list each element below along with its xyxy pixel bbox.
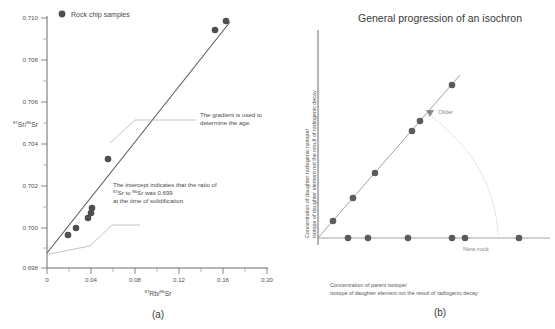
panel-b: General progression of an isochron <box>300 0 555 329</box>
y-tick-label-6: 0.698 <box>23 264 39 271</box>
data-point <box>350 195 357 202</box>
x-tick-label-0: 0 <box>45 276 49 283</box>
x-tick-label-1: 0.04 <box>85 276 98 283</box>
data-point <box>65 232 72 239</box>
data-point <box>462 235 469 242</box>
panel-b-x-axis-label-line-2: isotope of daughter element not the resu… <box>330 290 478 296</box>
progression-arc <box>432 117 498 236</box>
y-tick-label-1: 0.708 <box>23 56 39 63</box>
intercept-annotation-line-3: at the time of solidification. <box>113 197 185 204</box>
data-point <box>405 235 412 242</box>
x-tick-label-4: 0.16 <box>217 276 230 283</box>
data-point <box>223 18 230 25</box>
y-tick-label-5: 0.700 <box>23 224 39 231</box>
data-point <box>330 218 337 225</box>
x-tick-label-2: 0.08 <box>129 276 142 283</box>
data-point <box>105 156 112 163</box>
isochron-fit-line <box>47 22 230 253</box>
x-axis-ticks <box>47 268 267 274</box>
y-axis-title: 87Sr/86Sr <box>13 120 39 128</box>
panel-b-title: General progression of an isochron <box>358 12 522 24</box>
y-tick-label-0: 0.710 <box>23 14 39 21</box>
data-point <box>212 27 219 34</box>
rock-chip-data-points <box>65 18 230 239</box>
gradient-leader-line <box>110 120 196 143</box>
x-axis-title-mid: Rb/ <box>149 290 160 297</box>
older-isochron-line <box>318 75 460 238</box>
x-axis-title: 87Rb/86Sr <box>145 289 173 297</box>
gradient-annotation-line-2: determine the age. <box>200 119 251 126</box>
data-point <box>449 235 456 242</box>
panel-b-y-axis-label-line-2: isotope of daughter element not the resu… <box>311 90 317 238</box>
data-point <box>365 235 372 242</box>
intercept-annotation-line-1: The intercept indicates that the ratio o… <box>113 181 217 188</box>
gradient-annotation-line-1: The gradient is used to <box>200 111 263 118</box>
older-arrow-icon <box>426 110 434 117</box>
intercept-leader-line <box>49 225 140 254</box>
panel-b-y-axis-label: Concentration of daughter radiogenic iso… <box>304 90 317 238</box>
y-axis-title-tail: Sr <box>31 121 39 128</box>
y-tick-label-4: 0.702 <box>23 182 39 189</box>
y-tick-label-3: 0.704 <box>23 140 39 147</box>
panel-b-chart: General progression of an isochron <box>300 0 555 329</box>
older-label: Older <box>438 108 453 115</box>
legend-marker-icon <box>59 11 66 18</box>
panel-b-caption: (b) <box>434 307 446 318</box>
y-axis-title-main: Sr/ <box>18 121 27 128</box>
data-point <box>73 225 80 232</box>
data-point <box>409 128 416 135</box>
data-point <box>372 170 379 177</box>
panel-a: 0.710 0.708 0.706 0.704 0.702 0.700 0.69… <box>0 0 300 329</box>
panel-b-y-axis-label-line-1: Concentration of daughter radiogenic iso… <box>304 128 310 238</box>
legend-label: Rock chip samples <box>71 11 130 19</box>
x-tick-label-3: 0.12 <box>173 276 186 283</box>
legend-rock-chip-samples: Rock chip samples <box>59 11 131 19</box>
isochron-figure: 0.710 0.708 0.706 0.704 0.702 0.700 0.69… <box>0 0 555 329</box>
data-point <box>89 205 96 212</box>
y-tick-label-2: 0.706 <box>23 98 39 105</box>
data-point <box>417 118 424 125</box>
intercept-tail: Sr was 0.699 <box>137 189 173 196</box>
panel-a-chart: 0.710 0.708 0.706 0.704 0.702 0.700 0.69… <box>0 0 300 329</box>
data-point <box>345 235 352 242</box>
panel-a-caption: (a) <box>152 309 164 320</box>
x-axis-title-tail: Sr <box>165 290 173 297</box>
intercept-mid: Sr to <box>118 189 133 196</box>
intercept-annotation-line-2: 87Sr to 86Sr was 0.699 <box>113 189 173 197</box>
data-point <box>516 235 523 242</box>
panel-b-x-axis-label-line-1: Concentration of parent isotope/ <box>330 282 407 288</box>
x-tick-label-5: 0.20 <box>261 276 274 283</box>
data-point <box>449 82 456 89</box>
new-rock-label: New rock <box>463 245 490 252</box>
y-axis-ticks <box>41 18 47 268</box>
